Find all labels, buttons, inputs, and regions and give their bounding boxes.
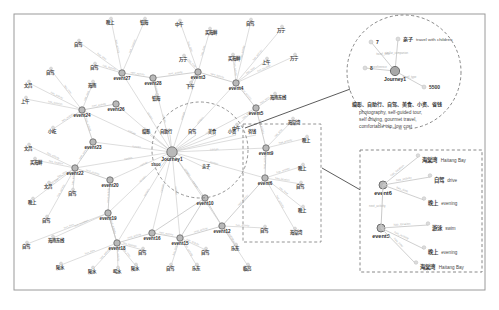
figure-canvas: containcontaincontaincontaincontainconta…: [0, 0, 499, 310]
attribute-label: 乐东: [192, 265, 201, 272]
attribute-label: 晚上: [28, 199, 37, 206]
callout-attribute-label: 5500: [429, 84, 440, 90]
edge-label: next_activity: [262, 154, 266, 169]
attribute-label: 下午: [186, 83, 195, 90]
callout-hub-label: Journey1: [384, 76, 406, 82]
attribute-label: 万宁: [178, 56, 188, 63]
attribute-label: 上午: [21, 98, 30, 105]
hub-attribute-label: 亲子: [202, 163, 211, 170]
callout-preference-en-line: self driving, gourmet travel,: [359, 117, 417, 122]
attribute-label: 自驾: [42, 217, 51, 224]
attribute-label: 万宁: [289, 55, 299, 62]
callout-attribute-label: 亲子: [403, 36, 413, 43]
attribute-label: 海南东线: [48, 237, 65, 244]
attribute-label: 自驾: [46, 69, 55, 76]
node-label: event27: [113, 76, 131, 81]
callout-attribute-label-en: evening: [441, 201, 458, 206]
node-label: event26: [107, 107, 125, 112]
attribute-label: 晚上: [298, 207, 307, 214]
attribute-label: 海南: [88, 82, 97, 89]
node-label: event18: [108, 246, 126, 251]
hub-attribute-label: 小资: [228, 128, 237, 135]
node-label: event16: [143, 236, 161, 241]
callout-attribute-label-cn: 晚上: [428, 248, 439, 256]
callout-attribute-label: 7: [376, 39, 379, 45]
node-label: event10: [196, 201, 214, 206]
callout-journey-hub[interactable]: [390, 66, 399, 75]
attribute-label: 自驾: [22, 243, 31, 250]
attribute-label: 自驾: [166, 265, 175, 272]
attribute-label: 中午: [175, 21, 184, 28]
hub-attribute-label: 5500: [151, 162, 161, 167]
callout-attribute-node: [414, 261, 418, 265]
attribute-label: 买海鲜: [205, 29, 218, 36]
attribute-label: 自驾: [74, 41, 83, 48]
callout-edge-label: travel_time: [376, 52, 390, 56]
node-label: event5: [249, 111, 264, 116]
attribute-label: 自驾: [68, 190, 77, 197]
attribute-label: 文昌: [44, 183, 52, 190]
callout-attribute-node: [422, 246, 426, 250]
node-label: event9: [259, 151, 274, 156]
node-label: event23: [84, 145, 102, 150]
node-label: event6: [258, 181, 273, 186]
callout-attribute-node: [363, 66, 367, 70]
edge-label: contain: [210, 147, 219, 151]
attribute-label: 乐东: [231, 245, 240, 252]
callout-attribute-node: [369, 40, 373, 44]
attribute-label: 自驾: [296, 183, 305, 190]
node-label: event24: [73, 113, 91, 118]
attribute-label: 自驾: [260, 227, 269, 234]
attribute-label: 喝水: [113, 268, 122, 275]
attribute-label: 自驾: [90, 64, 99, 71]
attribute-label: 海棠湾: [290, 229, 303, 236]
node-label: event22: [66, 171, 84, 176]
callout-attribute-node: [416, 154, 420, 158]
attribute-label: 铂海: [152, 95, 161, 102]
node-label: event3: [191, 75, 206, 80]
node-label: event4: [229, 86, 244, 91]
node-label: event20: [101, 183, 119, 188]
callout-preference-en-line: photography, self-guided tour,: [359, 110, 422, 115]
node-label: event28: [144, 81, 162, 86]
knowledge-graph-svg: containcontaincontaincontaincontainconta…: [0, 0, 499, 310]
callout-attribute-node: [428, 174, 432, 178]
attribute-label: 万宁: [276, 27, 286, 34]
callout-attribute-node: [422, 197, 426, 201]
attribute-label: 买海鲜: [228, 55, 241, 62]
attribute-label: 陵水: [131, 265, 140, 272]
hub-attribute-label: 美食: [208, 128, 217, 135]
hub-attribute-label: 摄影: [142, 128, 151, 135]
callout-attribute-label-cn: 海棠湾: [420, 263, 436, 271]
attribute-label: 小吃: [48, 128, 57, 135]
attribute-label: 买海鲜: [30, 159, 43, 166]
callout-attribute-label-en: evening: [441, 250, 458, 255]
callout-attribute-label-en: drive: [447, 178, 457, 183]
callout-attribute-label-cn: 游泳: [432, 224, 443, 232]
hub-attribute-label: 自助行: [160, 128, 173, 135]
callout-attribute-label-cn: 海棠湾: [422, 156, 438, 164]
attribute-label: 海南东线: [270, 94, 287, 101]
callout-attribute-translation: travel with children: [416, 37, 453, 42]
node-label: event19: [99, 216, 117, 221]
callout-edge-label: next_activity: [369, 204, 386, 208]
attribute-label: 陵水: [88, 268, 97, 275]
hub-attribute-label: 自驾: [188, 128, 196, 135]
callout-attribute-node: [426, 222, 430, 226]
callout-attribute-node: [396, 37, 400, 41]
attribute-label: 自驾: [201, 249, 210, 256]
node-label: Journey1: [161, 157, 183, 162]
node-label: event15: [171, 241, 189, 246]
hub-attribute-label: 省钱: [247, 128, 257, 135]
callout-attribute-label-en: Haitang Bay: [439, 265, 465, 270]
attribute-label: 铂海: [140, 19, 149, 26]
attribute-label: 晚上: [106, 19, 115, 26]
attribute-label: 上午: [262, 59, 271, 66]
attribute-label: 临高: [243, 265, 252, 272]
attribute-label: 陵水: [56, 264, 65, 271]
callout-edge-label: preference: [373, 65, 387, 69]
callout-attribute-label-cn: 晚上: [428, 199, 439, 207]
attribute-label: 自驾: [138, 249, 147, 256]
node-label: event12: [213, 229, 231, 234]
callout-preference-cn-text: 摄影、自助行、自驾、美食、小资、省钱: [352, 101, 442, 108]
